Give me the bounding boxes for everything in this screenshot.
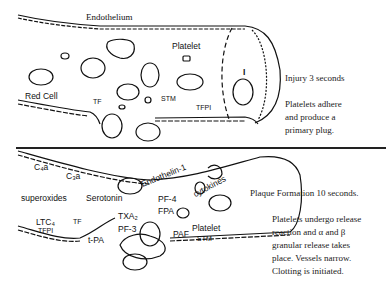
label-tf-bottom: TF — [73, 218, 82, 225]
label-stm-bottom: STM — [197, 235, 212, 242]
label-platelet: Platelet — [172, 42, 200, 51]
label-pf4: PF-4 — [158, 195, 176, 204]
caption-injury-line-3: primary plug. — [285, 124, 334, 137]
label-c4a: C₄a — [34, 163, 48, 172]
label-pf3: PF-3 — [118, 225, 136, 234]
label-txa2: TXA₂ — [118, 212, 138, 221]
caption-plaque-line-4: place. Vessels narrow. — [272, 252, 351, 265]
caption-plaque-line-3: granular release takes — [272, 239, 350, 252]
caption-injury-line-1: Platelets adhere — [285, 98, 342, 111]
panel-divider — [16, 147, 386, 149]
label-tfpi-bottom: TFPI — [38, 227, 53, 234]
label-c3a: C₃a — [66, 172, 80, 181]
caption-plaque-title: Plaque Formation 10 seconds. — [250, 187, 359, 200]
label-tfpi: TFPI — [196, 104, 211, 111]
caption-injury-title: Injury 3 seconds — [285, 72, 345, 85]
label-red-cell: Red Cell — [25, 92, 58, 101]
label-stm: STM — [161, 95, 176, 102]
caption-injury-line-2: and produce a — [285, 111, 335, 124]
label-tpa: t-PA — [88, 236, 104, 245]
caption-plaque-line-1: Platelets undergo release — [272, 213, 361, 226]
label-roman-one: I — [243, 68, 245, 77]
label-ltc4: LTC₄ — [36, 218, 55, 227]
label-platelet-bottom: Platelet — [192, 224, 220, 233]
label-paf: PAF — [173, 230, 189, 239]
caption-plaque-line-2: reaction and α and β — [272, 226, 345, 239]
caption-plaque-line-5: Clotting is initiated. — [272, 265, 344, 278]
label-superoxides: superoxides — [21, 194, 67, 203]
label-serotonin: Serotonin — [86, 194, 122, 203]
label-tf: TF — [93, 98, 102, 105]
label-endothelium: Endothelium — [86, 13, 133, 22]
label-fpa: FPA — [158, 207, 174, 216]
